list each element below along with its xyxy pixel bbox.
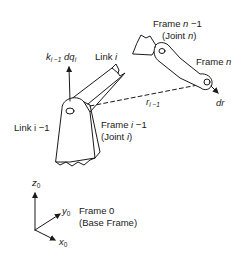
base-frame-axes: [35, 193, 60, 240]
label-frame-0: Frame 0: [79, 205, 114, 216]
link-n-minus-1-shape: [133, 35, 157, 55]
dr-arrow: [211, 86, 218, 93]
label-z0: z0: [31, 177, 41, 189]
label-dr: dr: [216, 97, 225, 108]
robot-arm-diagram: Frame n −1 (Joint n) Frame n ki −1 dqi L…: [0, 0, 247, 262]
diagram-canvas: Frame n −1 (Joint n) Frame n ki −1 dqi L…: [0, 0, 247, 262]
label-x0: x0: [58, 236, 68, 248]
y0-axis: [35, 214, 60, 230]
label-r-vector: ri −1: [146, 96, 160, 108]
label-link-i: Link i: [95, 51, 118, 62]
label-frame-i-minus-1: Frame i −1: [101, 119, 147, 130]
label-k-dq: ki −1 dqi: [46, 51, 77, 63]
label-link-i-minus-1: Link i −1: [14, 122, 50, 133]
label-joint-n: (Joint n): [162, 30, 196, 41]
x0-axis: [35, 230, 55, 240]
label-base-frame: (Base Frame): [79, 217, 137, 228]
label-frame-n: Frame n: [196, 56, 231, 67]
k-axis-arrow: [69, 67, 70, 101]
label-y0: y0: [61, 205, 71, 217]
label-joint-i: (Joint i): [101, 131, 132, 142]
label-frame-n-minus-1: Frame n −1: [153, 18, 202, 29]
